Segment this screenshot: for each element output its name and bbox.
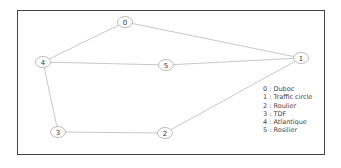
legend-item-2: 2 : Roulier [263,102,312,110]
edge-4-3 [43,62,58,132]
legend-item-5: 5 : Rosilier [263,126,312,134]
node-1: 1 [294,53,309,64]
node-4: 4 [36,57,51,68]
node-0: 0 [118,17,133,28]
edge-3-2 [58,132,165,133]
node-5: 5 [159,60,174,71]
legend-item-1: 1 : Traffic circle [263,93,312,101]
node-label: 2 [163,130,167,138]
node-label: 5 [164,62,168,70]
edge-5-1 [166,58,301,65]
graph-diagram: 012345 [0,0,341,168]
legend-item-4: 4 : Atlantique [263,118,312,126]
node-label: 0 [123,19,127,27]
node-label: 1 [299,55,303,63]
node-label: 4 [41,59,46,67]
node-label: 3 [56,129,60,137]
legend-item-0: 0 : Duboc [263,85,312,93]
node-2: 2 [158,128,173,139]
edge-0-1 [125,22,301,58]
legend-item-3: 3 : TDF [263,110,312,118]
edge-4-5 [43,62,166,65]
edge-4-0 [43,22,125,62]
node-3: 3 [51,127,66,138]
legend: 0 : Duboc 1 : Traffic circle 2 : Roulier… [263,85,312,135]
